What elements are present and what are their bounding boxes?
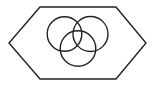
hexagon-outline: [9, 7, 146, 79]
circle-top-right: [73, 17, 108, 52]
hexagon-venn-diagram: [0, 0, 155, 87]
circle-top-left: [47, 17, 82, 52]
circle-bottom: [60, 31, 96, 67]
